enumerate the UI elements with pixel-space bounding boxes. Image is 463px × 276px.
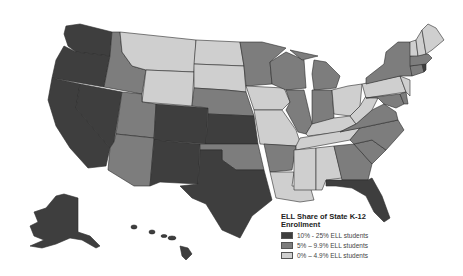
legend-label-high: 10% - 25% ELL students <box>297 232 368 239</box>
legend-label-low: 0% – 4.9% ELL students <box>297 252 368 259</box>
state-ia <box>246 86 290 110</box>
map-legend: ELL Share of State K-12 Enrollment 10% -… <box>281 213 461 259</box>
legend-label-mid: 5% – 9.9% ELL students <box>297 242 368 249</box>
state-ks <box>206 114 258 144</box>
legend-swatch-mid <box>281 242 293 249</box>
legend-swatch-low <box>281 252 293 259</box>
legend-item-high: 10% - 25% ELL students <box>281 232 461 239</box>
legend-swatch-high <box>281 232 293 239</box>
state-ms <box>294 148 316 190</box>
state-sd <box>194 64 246 92</box>
state-ak <box>30 194 100 248</box>
state-co <box>154 104 208 144</box>
state-ny <box>366 42 414 84</box>
legend-item-low: 0% – 4.9% ELL students <box>281 252 461 259</box>
state-wy <box>142 70 194 106</box>
state-az <box>108 134 154 186</box>
legend-title-line2: Enrollment <box>281 221 461 229</box>
state-ar <box>264 144 296 172</box>
state-nm <box>150 140 200 186</box>
state-me <box>422 24 444 54</box>
state-nd <box>194 40 244 66</box>
state-hi <box>131 225 192 260</box>
legend-item-mid: 5% – 9.9% ELL students <box>281 242 461 249</box>
